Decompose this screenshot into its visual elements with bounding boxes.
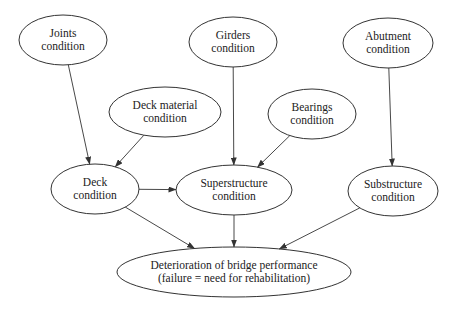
arrow-bearings-to-superstructure — [258, 136, 290, 168]
label-line-1: Substructure — [364, 178, 422, 191]
label-line-1: Girders — [211, 29, 254, 42]
label-line-2: condition — [133, 112, 198, 125]
arrow-abutment-to-substructure — [389, 68, 392, 166]
node-label-deterioration: Deterioration of bridge performance(fail… — [151, 259, 318, 285]
arrow-girders-to-superstructure — [233, 67, 234, 165]
node-label-deck-material: Deck materialcondition — [133, 99, 198, 125]
influence-diagram: JointsconditionGirdersconditionAbutmentc… — [0, 0, 457, 314]
label-line-1: Bearings — [290, 101, 333, 114]
node-label-girders: Girderscondition — [211, 29, 254, 55]
label-line-2: condition — [364, 191, 422, 204]
arrow-deck-to-deterioration — [125, 207, 194, 248]
label-line-2: condition — [365, 43, 411, 56]
arrow-joints-to-deck — [68, 65, 89, 164]
label-line-1: Deterioration of bridge performance — [151, 259, 318, 272]
node-label-abutment: Abutmentcondition — [365, 30, 411, 56]
arrow-substructure-to-deterioration — [279, 208, 360, 249]
label-line-2: condition — [73, 189, 116, 202]
label-line-1: Joints — [41, 27, 84, 40]
node-label-joints: Jointscondition — [41, 27, 84, 53]
label-line-2: condition — [41, 40, 84, 53]
label-line-1: Abutment — [365, 30, 411, 43]
node-label-bearings: Bearingscondition — [290, 101, 333, 127]
arrow-deck-material-to-deck — [115, 135, 144, 167]
edges — [68, 65, 392, 249]
node-label-substructure: Substructurecondition — [364, 178, 422, 204]
label-line-1: Deck — [73, 176, 116, 189]
label-line-2: (failure = need for rehabilitation) — [151, 272, 318, 285]
label-line-2: condition — [290, 114, 333, 127]
node-label-deck: Deckcondition — [73, 176, 116, 202]
label-line-1: Superstructure — [200, 177, 267, 190]
node-label-superstructure: Superstructurecondition — [200, 177, 267, 203]
label-line-2: condition — [211, 42, 254, 55]
nodes — [19, 15, 438, 297]
label-line-2: condition — [200, 190, 267, 203]
label-line-1: Deck material — [133, 99, 198, 112]
